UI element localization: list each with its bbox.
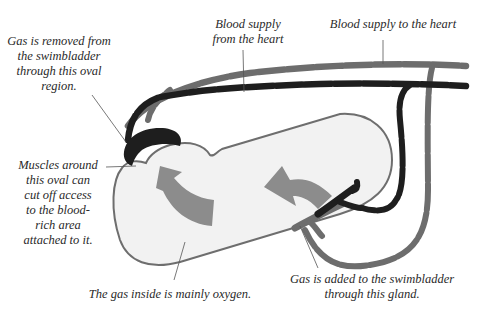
label-gland: Gas is added to the swimbladder through …: [282, 272, 462, 302]
label-muscles: Muscles around this oval can cut off acc…: [8, 158, 108, 248]
label-line: attached to it.: [8, 233, 108, 248]
label-oval-removal: Gas is removed from the swimbladder thro…: [0, 34, 118, 94]
label-gas-inside: The gas inside is mainly oxygen.: [70, 287, 270, 302]
label-line: from the heart: [198, 32, 298, 47]
label-line: Gas is removed from: [0, 34, 118, 49]
label-line: region.: [0, 79, 118, 94]
label-from-heart: Blood supply from the heart: [198, 17, 298, 47]
label-line: through this oval: [0, 64, 118, 79]
label-line: through this gland.: [282, 287, 462, 302]
label-line: cut off access: [8, 188, 108, 203]
label-line: The gas inside is mainly oxygen.: [70, 287, 270, 302]
label-line: this oval can: [8, 173, 108, 188]
label-line: Muscles around: [8, 158, 108, 173]
label-line: Blood supply to the heart: [318, 17, 468, 32]
label-to-heart: Blood supply to the heart: [318, 17, 468, 32]
label-line: the swimbladder: [0, 49, 118, 64]
label-line: to the blood-: [8, 203, 108, 218]
label-line: Gas is added to the swimbladder: [282, 272, 462, 287]
label-line: rich area: [8, 218, 108, 233]
label-line: Blood supply: [198, 17, 298, 32]
